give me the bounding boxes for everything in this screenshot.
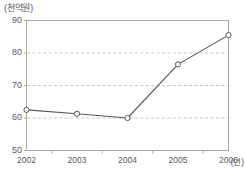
x-axis-tick-label: 2002: [7, 155, 47, 165]
plot-area-svg: [0, 0, 245, 170]
data-point-marker: [175, 62, 180, 67]
x-axis-tick-label: 2003: [57, 155, 97, 165]
y-axis-tick-label: 50: [2, 145, 22, 155]
data-point-marker: [24, 107, 29, 112]
y-axis-tick-label: 60: [2, 112, 22, 122]
y-axis-tick-label: 80: [2, 47, 22, 57]
data-point-marker: [74, 111, 79, 116]
data-point-marker: [226, 33, 231, 38]
x-axis-tick-label: 2004: [108, 155, 148, 165]
y-axis-tick-label: 70: [2, 80, 22, 90]
x-axis-tick-label: 2005: [158, 155, 198, 165]
data-point-marker: [125, 115, 130, 120]
x-axis-name-label: (년): [231, 155, 245, 167]
line-chart-figure: (천억원) 9080706050 20022003200420052006 (년…: [0, 0, 245, 170]
y-axis-tick-label: 90: [2, 15, 22, 25]
